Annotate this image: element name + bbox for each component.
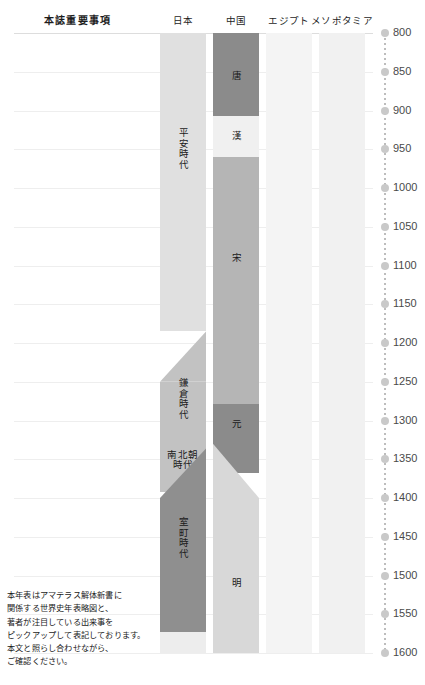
axis-tick-dot-1200 <box>381 339 389 347</box>
caption-line: 本文と照らし合わせながら、 <box>7 642 145 655</box>
axis-tick-dot-1000 <box>381 184 389 192</box>
axis-tick-dot-850 <box>381 68 389 76</box>
caption-line: ピックアップして表記しております。 <box>7 629 145 642</box>
axis-tick-label-1550: 1550 <box>393 607 417 619</box>
era-label-yuan: 元 <box>231 419 242 430</box>
axis-tick-dot-1050 <box>381 223 389 231</box>
axis-tick-label-850: 850 <box>393 65 411 77</box>
axis-tick-label-950: 950 <box>393 142 411 154</box>
axis-tick-dot-1500 <box>381 572 389 580</box>
era-column-japan: 平安時代鎌倉時代南北朝時代室町時代 <box>160 33 206 653</box>
caption-line: ご確認ください。 <box>7 655 145 668</box>
caption-line: 関係する世界史年表略図と、 <box>7 602 145 615</box>
axis-tick-label-1100: 1100 <box>393 259 417 271</box>
caption-line: 著者が注目している出来事を <box>7 616 145 629</box>
era-label-han: 漢 <box>231 131 242 142</box>
column-header-mesopotamia: メソポタミア <box>297 13 387 27</box>
axis-tick-dot-900 <box>381 107 389 115</box>
era-column-mesopotamia <box>319 33 365 653</box>
axis-tick-label-1000: 1000 <box>393 181 417 193</box>
era-label-tang: 唐 <box>231 70 242 81</box>
axis-tick-label-1450: 1450 <box>393 530 417 542</box>
axis-tick-label-800: 800 <box>393 26 411 38</box>
year-axis: 8008509009501000105011001150120012501300… <box>381 33 425 653</box>
timeline-chart: 本誌重要事項 日本中国エジプトメソポタミア 平安時代鎌倉時代南北朝時代室町時代唐… <box>0 0 425 685</box>
era-label-kamakura: 鎌倉時代 <box>178 378 189 420</box>
era-band-egypt-era[interactable] <box>266 33 312 653</box>
caption-line: 本年表はアマテラス解体新書に <box>7 589 145 602</box>
axis-tick-label-1400: 1400 <box>393 491 417 503</box>
era-column-egypt <box>266 33 312 653</box>
axis-tick-label-1600: 1600 <box>393 646 417 658</box>
axis-tick-label-1500: 1500 <box>393 569 417 581</box>
era-label-song: 宋 <box>231 253 242 264</box>
axis-tick-label-1050: 1050 <box>393 220 417 232</box>
axis-tick-dot-800 <box>381 29 389 37</box>
axis-tick-dot-1150 <box>381 300 389 308</box>
axis-tick-dot-1100 <box>381 262 389 270</box>
caption-note: 本年表はアマテラス解体新書に関係する世界史年表略図と、著者が注目している出来事を… <box>7 589 145 669</box>
era-band-mesopotamia-era[interactable] <box>319 33 365 653</box>
era-band-ming[interactable] <box>213 498 259 653</box>
axis-tick-label-900: 900 <box>393 104 411 116</box>
axis-tick-label-1350: 1350 <box>393 452 417 464</box>
era-label-muromachi: 室町時代 <box>178 517 189 559</box>
era-label-ming: 明 <box>231 578 242 589</box>
axis-tick-label-1150: 1150 <box>393 297 417 309</box>
axis-tick-label-1250: 1250 <box>393 375 417 387</box>
axis-tick-label-1300: 1300 <box>393 414 417 426</box>
era-band-heian[interactable] <box>160 33 206 331</box>
era-band-kamakura-transition[interactable] <box>160 331 206 381</box>
axis-tick-dot-1300 <box>381 417 389 425</box>
axis-tick-label-1200: 1200 <box>393 336 417 348</box>
axis-tick-dot-1450 <box>381 533 389 541</box>
axis-tick-dot-1550 <box>381 610 389 618</box>
axis-tick-dot-1350 <box>381 455 389 463</box>
axis-tick-dot-950 <box>381 145 389 153</box>
era-band-song[interactable] <box>213 157 259 404</box>
timeline-plot-area: 平安時代鎌倉時代南北朝時代室町時代唐漢宋元明 <box>0 33 425 653</box>
era-column-china: 唐漢宋元明 <box>213 33 259 653</box>
axis-tick-dot-1600 <box>381 649 389 657</box>
era-label-heian: 平安時代 <box>178 128 189 170</box>
axis-tick-dot-1400 <box>381 494 389 502</box>
era-band-azuchi[interactable] <box>160 632 206 653</box>
page-title: 本誌重要事項 <box>44 12 111 27</box>
axis-tick-dot-1250 <box>381 378 389 386</box>
